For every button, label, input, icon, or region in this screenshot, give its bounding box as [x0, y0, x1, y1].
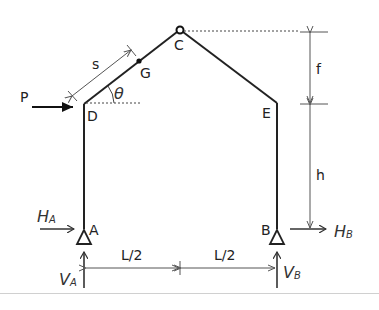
reaction-VA-sub: A	[69, 277, 77, 288]
point-C-label: C	[174, 37, 184, 53]
rafter-CE	[183, 32, 277, 103]
dimension-left-half-span-label: L/2	[121, 247, 142, 263]
point-G-icon	[136, 58, 141, 63]
point-D-label: D	[87, 108, 98, 124]
dimension-h-label: h	[316, 167, 325, 183]
frame	[84, 27, 277, 230]
dimension-s-tick-start	[68, 91, 77, 101]
reaction-VB-sub: B	[294, 270, 301, 281]
angle-theta-label: θ	[114, 84, 124, 103]
portal-frame-diagram: θ s C G D E A B P f h HA HB VA VB L/2 L/…	[0, 0, 379, 310]
reaction-HA-label: HA	[37, 207, 56, 226]
point-B-label: B	[261, 222, 271, 238]
reaction-HB-sub: B	[346, 229, 353, 240]
reaction-VA-label: VA	[59, 270, 77, 289]
point-A-label: A	[89, 222, 99, 238]
point-G-label: G	[140, 65, 151, 81]
dimension-f-label: f	[316, 61, 322, 77]
reaction-HA-sub: A	[48, 214, 56, 225]
reaction-HB-main: H	[334, 222, 346, 241]
dimension-s-label: s	[92, 56, 99, 72]
reaction-HA-main: H	[37, 207, 49, 226]
reaction-HB-label: HB	[334, 222, 353, 241]
reaction-VB-label: VB	[283, 263, 301, 282]
load-P-label: P	[20, 89, 28, 105]
dimension-right-half-span-label: L/2	[214, 247, 235, 263]
point-E-label: E	[262, 105, 271, 121]
pin-support-B-icon	[270, 230, 284, 244]
dimension-s-tick-end	[127, 45, 136, 56]
hinge-C-icon	[177, 27, 184, 34]
